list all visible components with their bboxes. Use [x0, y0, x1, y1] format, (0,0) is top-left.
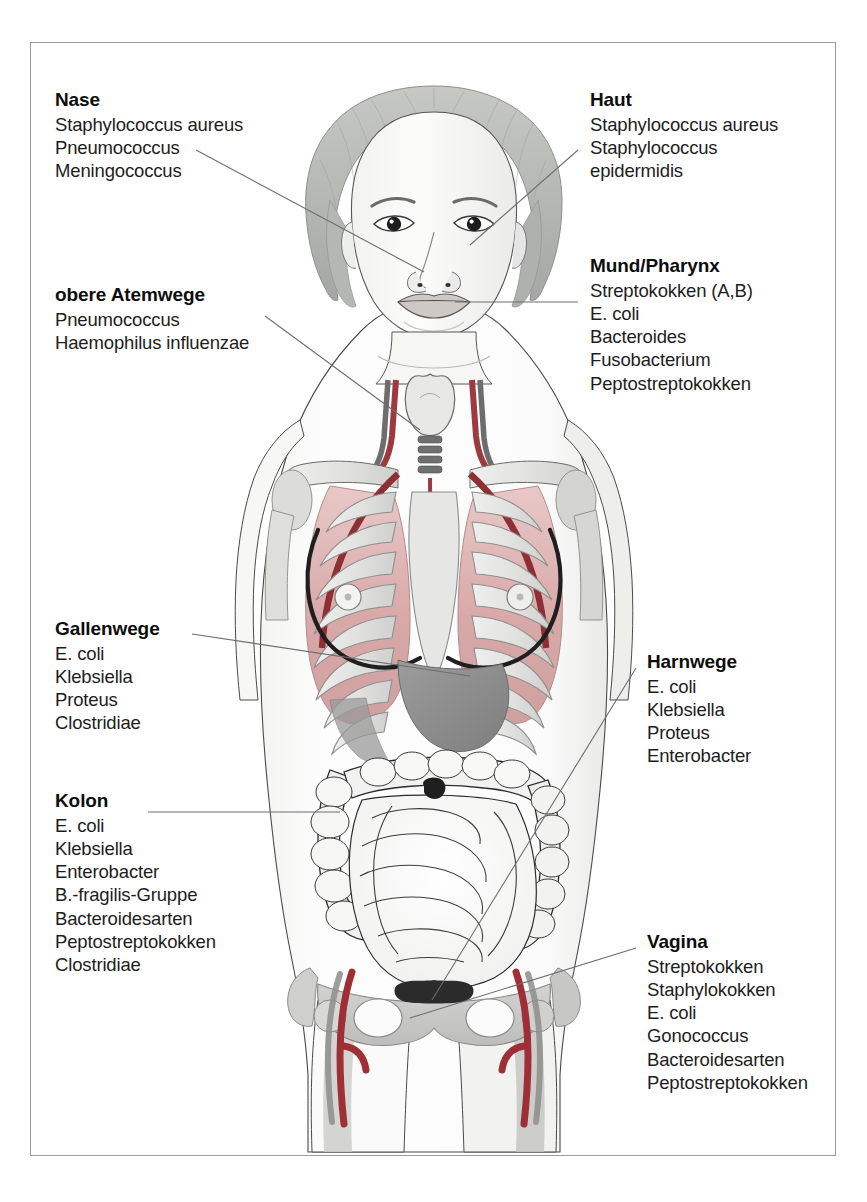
label-kolon-item-2: Enterobacter	[55, 860, 216, 883]
label-mund-pharynx-item-1: E. coli	[590, 302, 753, 325]
label-gallenwege-item-0: E. coli	[55, 642, 160, 665]
label-harnwege-item-1: Klebsiella	[647, 698, 751, 721]
label-kolon-item-3: B.-fragilis-Gruppe	[55, 883, 216, 906]
label-haut: Haut Staphylococcus aureus Staphylococcu…	[590, 88, 805, 182]
label-kolon: Kolon E. coli Klebsiella Enterobacter B.…	[55, 789, 216, 976]
label-haut-item-1: Staphylococcus epidermidis	[590, 136, 805, 182]
label-obere-atemwege: obere Atemwege Pneumococcus Haemophilus …	[55, 283, 249, 354]
label-gallenwege-title: Gallenwege	[55, 617, 160, 641]
label-harnwege-item-3: Enterobacter	[647, 744, 751, 767]
label-harnwege: Harnwege E. coli Klebsiella Proteus Ente…	[647, 650, 751, 768]
label-kolon-item-5: Peptostreptokokken	[55, 930, 216, 953]
label-vagina-item-3: Gonococcus	[647, 1024, 808, 1047]
label-kolon-item-4: Bacteroidesarten	[55, 907, 216, 930]
label-mund-pharynx-title: Mund/Pharynx	[590, 254, 753, 278]
label-mund-pharynx-item-3: Fusobacterium	[590, 348, 753, 371]
label-mund-pharynx-item-2: Bacteroides	[590, 325, 753, 348]
label-vagina-item-0: Streptokokken	[647, 955, 808, 978]
diagram-page: Nase Staphylococcus aureus Pneumococcus …	[0, 0, 867, 1202]
label-gallenwege: Gallenwege E. coli Klebsiella Proteus Cl…	[55, 617, 160, 735]
label-kolon-item-0: E. coli	[55, 814, 216, 837]
label-harnwege-title: Harnwege	[647, 650, 751, 674]
label-harnwege-item-0: E. coli	[647, 675, 751, 698]
label-haut-item-0: Staphylococcus aureus	[590, 113, 805, 136]
label-kolon-item-6: Clostridiae	[55, 953, 216, 976]
label-vagina-item-1: Staphylokokken	[647, 978, 808, 1001]
label-mund-pharynx-item-0: Streptokokken (A,B)	[590, 279, 753, 302]
label-vagina-title: Vagina	[647, 930, 808, 954]
label-vagina: Vagina Streptokokken Staphylokokken E. c…	[647, 930, 808, 1094]
label-nase-item-0: Staphylococcus aureus	[55, 113, 243, 136]
label-obere-atemwege-item-1: Haemophilus influenzae	[55, 331, 249, 354]
label-gallenwege-item-2: Proteus	[55, 688, 160, 711]
label-gallenwege-item-1: Klebsiella	[55, 665, 160, 688]
label-obere-atemwege-item-0: Pneumococcus	[55, 308, 249, 331]
label-haut-title: Haut	[590, 88, 805, 112]
label-nase-item-2: Meningococcus	[55, 159, 243, 182]
label-mund-pharynx-item-4: Peptostreptokokken	[590, 372, 753, 395]
label-nase: Nase Staphylococcus aureus Pneumococcus …	[55, 88, 243, 182]
label-kolon-item-1: Klebsiella	[55, 837, 216, 860]
label-vagina-item-2: E. coli	[647, 1001, 808, 1024]
label-gallenwege-item-3: Clostridiae	[55, 711, 160, 734]
label-vagina-item-5: Peptostreptokokken	[647, 1071, 808, 1094]
label-mund-pharynx: Mund/Pharynx Streptokokken (A,B) E. coli…	[590, 254, 753, 395]
label-nase-title: Nase	[55, 88, 243, 112]
label-vagina-item-4: Bacteroidesarten	[647, 1048, 808, 1071]
label-harnwege-item-2: Proteus	[647, 721, 751, 744]
label-nase-item-1: Pneumococcus	[55, 136, 243, 159]
label-obere-atemwege-title: obere Atemwege	[55, 283, 249, 307]
label-kolon-title: Kolon	[55, 789, 216, 813]
